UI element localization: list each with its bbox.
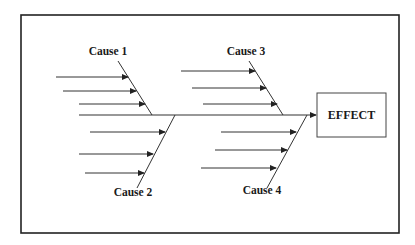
cause-1-label: Cause 1 [89,45,128,57]
cause-3-label: Cause 3 [227,45,266,57]
cause-2-branch: Cause 2 [79,115,175,198]
cause-1-branch: Cause 1 [56,45,152,115]
cause-2-label: Cause 2 [114,186,153,198]
effect-label: EFFECT [328,108,375,122]
cause-4-label: Cause 4 [243,184,282,196]
cause-4-branch: Cause 4 [201,115,307,196]
cause-3-branch: Cause 3 [181,45,283,115]
fishbone-diagram: EFFECT Cause 1 Cause 2 Cause 3 Cause 4 [0,0,415,245]
effect-box: EFFECT [317,93,386,137]
